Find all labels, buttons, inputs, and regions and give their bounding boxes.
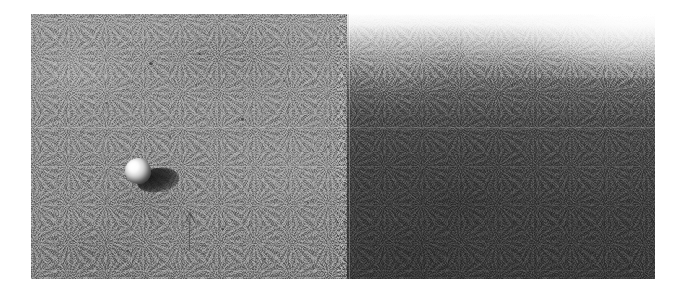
left-panel xyxy=(31,14,347,279)
right-panel-corner-glow xyxy=(464,14,655,78)
figure-root: Grainy grayscale surface photograph form… xyxy=(0,0,684,297)
right-panel xyxy=(347,14,655,279)
left-panel-tone xyxy=(31,14,347,279)
photo-plate xyxy=(31,14,655,279)
